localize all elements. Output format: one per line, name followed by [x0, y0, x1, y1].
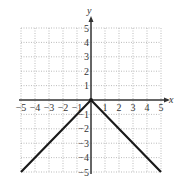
x-tick-label: 2: [117, 102, 122, 113]
x-axis-label: x: [168, 94, 174, 105]
x-tick-label: −2: [58, 102, 69, 113]
y-tick-label: 5: [84, 23, 89, 34]
y-tick-label: −3: [78, 138, 89, 149]
graph-of-negative-absolute-value: −5−4−3−2−11234554321−1−2−3−4−5 x y: [0, 0, 175, 182]
x-tick-label: 3: [131, 102, 136, 113]
y-tick-label: 3: [84, 51, 89, 62]
y-tick-label: 1: [84, 80, 89, 91]
y-axis-arrow-icon: [89, 16, 94, 22]
x-tick-label: −4: [30, 102, 41, 113]
x-tick-label: −3: [44, 102, 55, 113]
y-tick-label: −2: [78, 123, 89, 134]
y-tick-label: 2: [84, 66, 89, 77]
y-tick-label: −4: [78, 152, 89, 163]
y-tick-label: 4: [84, 37, 89, 48]
vertex-point: [89, 98, 93, 102]
y-tick-label: −5: [78, 167, 89, 178]
x-tick-label: 5: [159, 102, 164, 113]
x-tick-label: −5: [16, 102, 27, 113]
x-tick-label: 4: [145, 102, 150, 113]
y-axis-label: y: [86, 5, 92, 16]
